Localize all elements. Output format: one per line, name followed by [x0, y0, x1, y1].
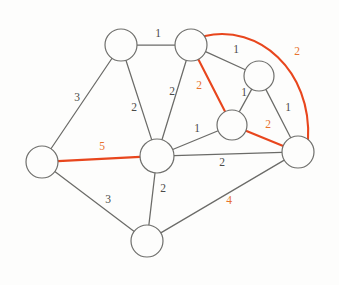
graph-edge-n3-n5: [266, 89, 291, 137]
graph-edge-n1-n6: [126, 60, 152, 140]
graph-edge-n6-n7: [58, 157, 140, 161]
edge-weight-n6-n8: 2: [160, 182, 166, 194]
graph-node-n7: [26, 146, 58, 178]
edge-weight-n5-n6: 2: [219, 156, 225, 168]
graph-canvas: 1322122112124523: [0, 0, 339, 285]
graph-node-n2: [175, 29, 207, 61]
graph-edge-n2-n6: [162, 60, 186, 139]
edge-weight-n2-n4: 2: [196, 79, 202, 91]
graph-node-n3: [244, 61, 274, 91]
graph-edge-n7-n8: [55, 172, 134, 232]
nodes-layer: [26, 29, 314, 257]
edge-weight-n2-n6: 2: [169, 85, 175, 97]
graph-edge-n2-n3: [206, 52, 246, 70]
graph-node-n6: [140, 139, 174, 173]
graph-edge-n2-n4: [198, 59, 225, 111]
graph-node-n1: [105, 29, 137, 61]
graph-node-n4: [217, 110, 247, 140]
graph-figure: 1322122112124523: [0, 0, 339, 285]
edge-weight-n3-n4: 1: [241, 86, 247, 98]
edge-weight-n4-n5: 2: [265, 118, 271, 130]
edge-weight-n1-n7: 3: [74, 91, 80, 103]
edge-weight-n2-n3: 1: [233, 43, 239, 55]
graph-edge-n5-n8: [161, 160, 284, 233]
edge-weight-n1-n6: 2: [131, 101, 137, 113]
graph-node-n8: [131, 225, 163, 257]
edge-weight-n1-n2: 1: [155, 27, 161, 39]
graph-edge-n1-n7: [51, 58, 112, 148]
graph-edge-n5-n6: [174, 152, 282, 155]
edge-weight-n7-n8: 3: [105, 193, 111, 205]
edge-weight-n3-n5: 1: [285, 101, 291, 113]
graph-node-n5: [282, 136, 314, 168]
edge-weight-n2-n5: 2: [294, 45, 300, 57]
edge-weight-n4-n6: 1: [194, 122, 200, 134]
edges-layer: [51, 34, 308, 233]
edge-weight-n6-n7: 5: [99, 140, 105, 152]
graph-edge-n4-n5: [246, 131, 283, 146]
graph-edge-n6-n8: [149, 173, 155, 225]
edge-weight-n5-n8: 4: [226, 194, 232, 206]
